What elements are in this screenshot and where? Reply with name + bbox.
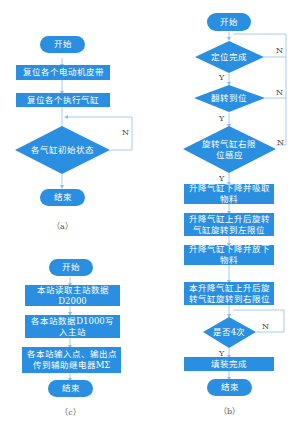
a-step1-label: 复位各个电动机皮带 — [16, 65, 110, 80]
b-decision2-label: 翻转到位 — [204, 92, 254, 104]
b-step3-label: 升降气缸下降并放下物料 — [186, 245, 272, 265]
b-step1-label: 升降气缸下降并吸取物料 — [186, 184, 272, 204]
b-step4-label: 本升降气缸上升后旋转气缸旋转到右限位 — [186, 282, 272, 305]
b-end-label: 结束 — [207, 379, 252, 396]
b-no-label-3: N — [277, 138, 284, 147]
b-start-label: 开始 — [207, 13, 251, 31]
b-step5-label: 填装完成 — [184, 357, 274, 371]
b-no-label-4: N — [262, 322, 269, 331]
c-end-label: 结束 — [48, 380, 93, 397]
a-no-label: N — [122, 128, 129, 137]
b-no-label-1: N — [276, 46, 283, 55]
a-end-label: 结束 — [40, 189, 85, 206]
a-step2-label: 复位各个执行气缸 — [16, 93, 110, 107]
a-caption: （a） — [40, 220, 85, 231]
b-caption: （b） — [207, 405, 252, 416]
b-yes-label-1: Y — [219, 73, 224, 82]
c-caption: （c） — [48, 406, 93, 417]
b-yes-label-3: Y — [219, 174, 224, 183]
b-decision3-label: 旋转气缸右限位感应 — [200, 139, 258, 161]
c-start-label: 开始 — [49, 259, 93, 276]
a-start-label: 开始 — [40, 36, 85, 53]
b-yes-label-2: Y — [219, 114, 224, 123]
b-decision1-label: 定位完成 — [204, 51, 254, 63]
c-step3-label: 各本站输入点、输出点传到辅助继电器MΣ — [24, 347, 119, 373]
b-no-label-2: N — [276, 88, 283, 97]
c-step2-label: 各本站数据D1000写入主站 — [29, 315, 116, 338]
b-decision4-label: 是否4次 — [209, 326, 249, 338]
a-decision-label: 各气缸初始状态 — [25, 143, 99, 157]
c-step1-label: 本站读取主站数据D2000 — [31, 285, 114, 306]
b-step2-label: 升降气缸上升后旋转气缸旋转到左限位 — [186, 213, 272, 236]
